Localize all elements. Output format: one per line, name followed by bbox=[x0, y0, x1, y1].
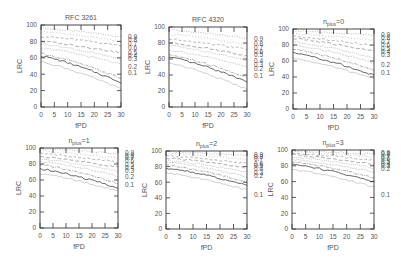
x-tick-label: 10 bbox=[191, 111, 199, 118]
series-label-q0.1: 0.1 bbox=[254, 72, 263, 79]
x-tick-label: 30 bbox=[243, 111, 251, 118]
x-tick-label: 25 bbox=[104, 111, 112, 118]
series-line-q0.6 bbox=[40, 157, 118, 167]
y-tick-label: 80 bbox=[29, 160, 37, 167]
x-tick-label: 0 bbox=[291, 113, 295, 120]
chart-title: RFC 3261 bbox=[65, 14, 97, 21]
x-tick-label: 5 bbox=[178, 233, 182, 240]
series-label-q0.2: 0.2 bbox=[381, 61, 390, 68]
x-tick-label: 5 bbox=[53, 111, 57, 118]
x-tick-label: 15 bbox=[329, 233, 337, 240]
y-tick-label: 80 bbox=[30, 38, 38, 45]
x-tick-label: 20 bbox=[91, 111, 99, 118]
chart-panel-4: 0.90.80.70.60.50.40.30.20.10510152025300… bbox=[141, 140, 263, 251]
series-line-q0.3 bbox=[41, 53, 121, 79]
x-tick-label: 20 bbox=[343, 233, 351, 240]
series-line-q0.5 bbox=[41, 44, 121, 60]
y-tick-label: 40 bbox=[281, 194, 289, 201]
x-tick-label: 5 bbox=[180, 111, 184, 118]
x-axis-label: fPD bbox=[328, 124, 340, 131]
y-tick-label: 0 bbox=[33, 103, 37, 110]
x-tick-label: 5 bbox=[51, 232, 55, 239]
series-line-q0.1 bbox=[293, 58, 374, 78]
chart-title: nplus=2 bbox=[196, 140, 217, 149]
chart-title: nplus=0 bbox=[323, 18, 344, 27]
x-tick-label: 20 bbox=[217, 111, 225, 118]
series-line-q0.7 bbox=[41, 36, 121, 46]
x-tick-label: 5 bbox=[305, 113, 309, 120]
y-tick-label: 80 bbox=[158, 39, 166, 46]
y-tick-label: 40 bbox=[155, 194, 163, 201]
x-tick-label: 0 bbox=[164, 233, 168, 240]
y-tick-label: 60 bbox=[155, 179, 163, 186]
y-axis-label: LRC bbox=[15, 181, 22, 195]
x-tick-label: 30 bbox=[114, 232, 122, 239]
y-tick-label: 40 bbox=[30, 71, 38, 78]
x-tick-label: 30 bbox=[370, 233, 378, 240]
series-label-q0.3: 0.3 bbox=[381, 51, 390, 58]
series-label-q0.2: 0.2 bbox=[254, 172, 263, 179]
series-line-q0.1 bbox=[41, 61, 121, 88]
y-tick-label: 60 bbox=[281, 178, 289, 185]
y-tick-label: 100 bbox=[277, 146, 288, 153]
series-line-q0.8 bbox=[293, 33, 374, 40]
y-tick-label: 100 bbox=[26, 21, 37, 28]
y-tick-label: 100 bbox=[154, 23, 165, 30]
y-tick-label: 80 bbox=[281, 162, 289, 169]
series-line-q0.2 bbox=[41, 56, 121, 83]
y-tick-label: 60 bbox=[282, 57, 290, 64]
x-axis-label: fPD bbox=[327, 244, 339, 251]
y-tick-label: 60 bbox=[30, 54, 38, 61]
y-axis-label: LRC bbox=[144, 60, 151, 74]
x-axis-label: fPD bbox=[75, 122, 87, 129]
x-tick-label: 5 bbox=[304, 233, 308, 240]
x-tick-label: 0 bbox=[167, 111, 171, 118]
x-tick-label: 30 bbox=[117, 111, 125, 118]
x-tick-label: 20 bbox=[343, 113, 351, 120]
chart-grid: 0.90.80.70.60.50.40.30.20.10510152025300… bbox=[0, 0, 401, 263]
y-tick-label: 80 bbox=[282, 41, 290, 48]
y-tick-label: 100 bbox=[278, 25, 289, 32]
y-tick-label: 40 bbox=[158, 71, 166, 78]
chart-panel-3: 0.90.80.70.60.50.40.30.20.10510152025300… bbox=[15, 137, 134, 250]
y-tick-label: 0 bbox=[285, 105, 289, 112]
x-tick-label: 0 bbox=[39, 111, 43, 118]
plot-frame bbox=[293, 29, 374, 109]
x-tick-label: 0 bbox=[38, 232, 42, 239]
x-tick-label: 25 bbox=[101, 232, 109, 239]
y-tick-label: 20 bbox=[282, 89, 290, 96]
x-tick-label: 25 bbox=[230, 111, 238, 118]
series-label-q0.2: 0.2 bbox=[125, 173, 134, 180]
y-tick-label: 20 bbox=[281, 210, 289, 217]
y-tick-label: 80 bbox=[155, 163, 163, 170]
x-axis-label: fPD bbox=[202, 122, 214, 129]
y-tick-label: 20 bbox=[30, 87, 38, 94]
x-tick-label: 25 bbox=[357, 113, 365, 120]
y-tick-label: 0 bbox=[158, 225, 162, 232]
plot-frame bbox=[41, 25, 121, 107]
chart-title: RFC 4320 bbox=[192, 16, 224, 23]
series-line-q0.3 bbox=[169, 54, 247, 77]
chart-panel-0: 0.90.80.70.60.50.40.30.20.10510152025300… bbox=[16, 14, 137, 129]
y-axis-label: LRC bbox=[267, 182, 274, 196]
x-tick-label: 0 bbox=[290, 233, 294, 240]
y-tick-label: 20 bbox=[155, 210, 163, 217]
series-label-q0.1: 0.1 bbox=[381, 191, 390, 198]
x-tick-label: 15 bbox=[203, 233, 211, 240]
x-tick-label: 30 bbox=[370, 113, 378, 120]
series-line-q0.4 bbox=[169, 50, 247, 67]
series-line-q0.3 bbox=[293, 49, 374, 71]
series-label-q0.1: 0.1 bbox=[254, 191, 263, 198]
y-tick-label: 60 bbox=[158, 55, 166, 62]
x-axis-label: fPD bbox=[201, 244, 213, 251]
x-tick-label: 30 bbox=[243, 233, 251, 240]
y-tick-label: 100 bbox=[151, 147, 162, 154]
series-label-q0.1: 0.1 bbox=[125, 181, 134, 188]
series-label-q0.1: 0.1 bbox=[381, 69, 390, 76]
y-tick-label: 20 bbox=[158, 87, 166, 94]
series-line-q0.2 bbox=[169, 57, 247, 82]
y-axis-label: LRC bbox=[16, 59, 23, 73]
x-tick-label: 15 bbox=[330, 113, 338, 120]
series-line-q0.2 bbox=[166, 168, 247, 185]
series-line-q0.2 bbox=[40, 168, 118, 188]
